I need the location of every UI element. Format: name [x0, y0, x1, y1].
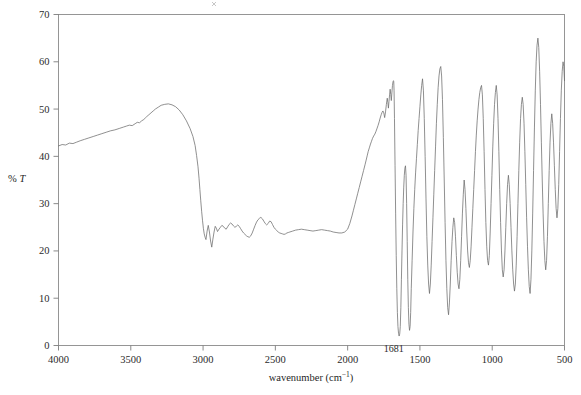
- y-tick-label: 20: [39, 245, 50, 256]
- y-tick-label: 70: [39, 9, 50, 20]
- y-tick-label: 0: [44, 340, 49, 351]
- y-tick-label: 30: [39, 198, 50, 209]
- crop-mark-icon: [212, 2, 216, 6]
- spectrum-svg: 010203040506070 400035003000250020001500…: [0, 0, 581, 395]
- y-axis-title: % T: [8, 173, 26, 184]
- x-axis-title: wavenumber (cm−1): [269, 370, 354, 385]
- x-tick-label: 3500: [120, 354, 141, 365]
- y-tick-label: 10: [39, 293, 50, 304]
- y-axis-ticks: 010203040506070: [39, 9, 59, 351]
- x-tick-label: 2000: [337, 354, 358, 365]
- peak-label-1681: 1681: [384, 343, 404, 354]
- x-tick-label: 3000: [193, 354, 214, 365]
- x-axis-ticks: 4000350030002500200015001000500: [48, 346, 572, 365]
- x-tick-label: 4000: [48, 354, 69, 365]
- ir-spectrum-figure: 010203040506070 400035003000250020001500…: [0, 0, 581, 395]
- x-tick-label: 2500: [265, 354, 286, 365]
- y-tick-label: 40: [39, 151, 50, 162]
- x-tick-label: 1000: [482, 354, 503, 365]
- x-tick-label: 500: [557, 354, 573, 365]
- crop-mark-group: [212, 2, 216, 6]
- peak-annotations: 1681: [384, 343, 404, 354]
- y-tick-label: 50: [39, 104, 50, 115]
- spectrum-trace: [59, 38, 565, 336]
- x-tick-label: 1500: [409, 354, 430, 365]
- y-tick-label: 60: [39, 56, 50, 67]
- plot-frame: [59, 15, 565, 346]
